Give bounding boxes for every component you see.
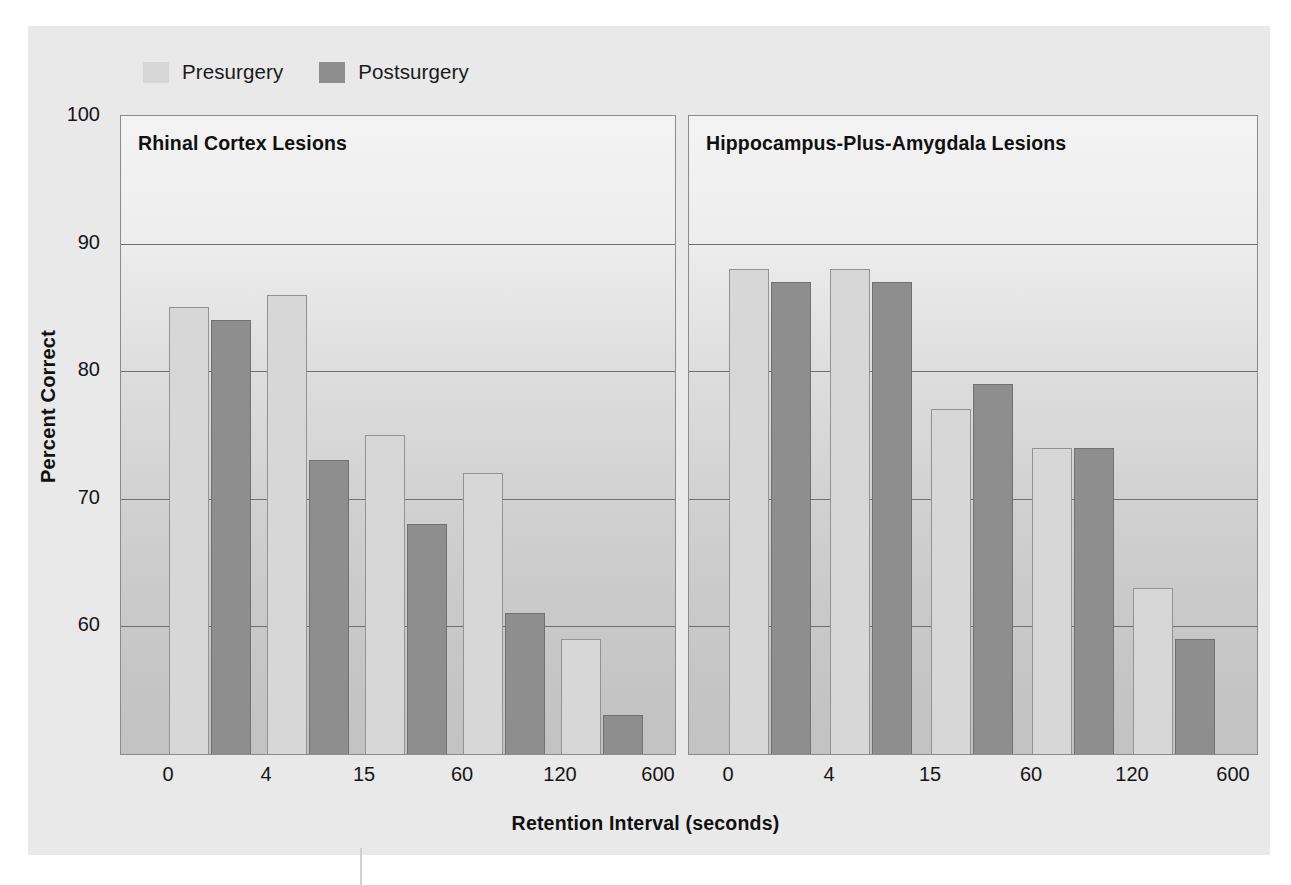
x-tick-120: 120 (530, 763, 590, 786)
x-tick-600: 600 (628, 763, 688, 786)
y-tick-90: 90 (48, 231, 100, 254)
bar-postsurgery-120 (505, 613, 545, 755)
x-tick-60: 60 (1001, 763, 1061, 786)
bar-presurgery-15 (267, 295, 307, 756)
bar-postsurgery-60 (973, 384, 1013, 755)
x-tick-4: 4 (799, 763, 859, 786)
bar-presurgery-4 (169, 307, 209, 755)
legend-swatch-presurgery (143, 62, 169, 83)
bar-postsurgery-600 (603, 715, 643, 755)
x-tick-60: 60 (432, 763, 492, 786)
legend-label-presurgery: Presurgery (182, 60, 283, 84)
chart-legend: Presurgery Postsurgery (143, 60, 469, 84)
legend-item-postsurgery: Postsurgery (319, 60, 468, 84)
y-tick-70: 70 (48, 486, 100, 509)
bar-postsurgery-600 (1175, 639, 1215, 755)
x-tick-120: 120 (1102, 763, 1162, 786)
panel-title-left: Rhinal Cortex Lesions (138, 132, 347, 155)
y-axis-title: Percent Correct (37, 297, 60, 517)
x-tick-600: 600 (1203, 763, 1263, 786)
x-tick-15: 15 (900, 763, 960, 786)
scan-edge-artifact (360, 848, 362, 885)
bar-presurgery-600 (561, 639, 601, 755)
x-tick-0: 0 (698, 763, 758, 786)
bar-postsurgery-120 (1074, 448, 1114, 756)
bar-postsurgery-60 (407, 524, 447, 755)
bar-presurgery-60 (365, 435, 405, 755)
y-tick-80: 80 (48, 358, 100, 381)
bar-postsurgery-15 (309, 460, 349, 755)
bars-right (689, 116, 1257, 754)
bar-presurgery-600 (1133, 588, 1173, 755)
bar-presurgery-60 (931, 409, 971, 755)
bar-presurgery-4 (729, 269, 769, 755)
bar-postsurgery-15 (872, 282, 912, 755)
bar-postsurgery-4 (771, 282, 811, 755)
legend-label-postsurgery: Postsurgery (358, 60, 468, 84)
bar-presurgery-15 (830, 269, 870, 755)
y-tick-100: 100 (48, 103, 100, 126)
panel-hippocampus-plus-amygdala-lesions: Hippocampus-Plus-Amygdala Lesions (688, 115, 1258, 755)
x-axis-title: Retention Interval (seconds) (0, 812, 1291, 835)
legend-swatch-postsurgery (319, 62, 345, 83)
x-tick-15: 15 (334, 763, 394, 786)
x-tick-4: 4 (236, 763, 296, 786)
figure-root: Presurgery Postsurgery Percent Correct 1… (0, 0, 1291, 885)
y-tick-60: 60 (48, 613, 100, 636)
panel-rhinal-cortex-lesions: Rhinal Cortex Lesions (120, 115, 676, 755)
bar-presurgery-120 (1032, 448, 1072, 756)
legend-item-presurgery: Presurgery (143, 60, 283, 84)
bars-left (121, 116, 675, 754)
bar-presurgery-120 (463, 473, 503, 755)
x-tick-0: 0 (138, 763, 198, 786)
bar-postsurgery-4 (211, 320, 251, 755)
panel-title-right: Hippocampus-Plus-Amygdala Lesions (706, 132, 1066, 155)
